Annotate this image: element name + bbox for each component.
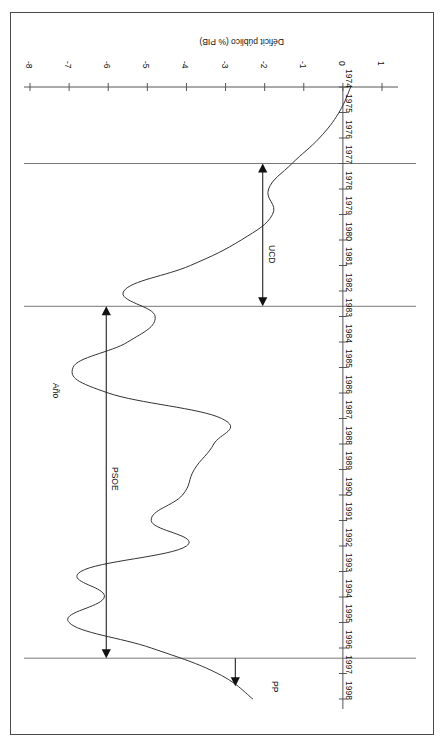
value-tick-label-4: -3 xyxy=(220,61,230,69)
year-tick-label-1979: 1979 xyxy=(344,197,354,216)
year-tick-label-1998: 1998 xyxy=(344,681,354,700)
year-tick-label-1993: 1993 xyxy=(344,554,354,573)
value-tick-label-7: -6 xyxy=(102,61,112,69)
year-tick-label-1974: 1974 xyxy=(344,69,354,88)
year-tick-label-1980: 1980 xyxy=(344,222,354,241)
year-tick-label-1988: 1988 xyxy=(344,426,354,445)
year-tick-label-1991: 1991 xyxy=(344,503,354,522)
chart-axes xyxy=(24,83,398,709)
year-tick-label-1996: 1996 xyxy=(344,630,354,649)
period-label-pp: PP xyxy=(270,681,280,692)
value-tick-label-8: -7 xyxy=(63,61,73,69)
arrow-head-up-ucd xyxy=(258,297,267,306)
rotated-figure-container: 1974197519761977197819791980198119821983… xyxy=(10,12,434,735)
deficit-line-chart: 1974197519761977197819791980198119821983… xyxy=(10,12,434,735)
year-tick-label-1983: 1983 xyxy=(344,299,354,318)
period-arrows xyxy=(102,164,268,687)
value-axis-title: Déficit público (% PIB) xyxy=(199,37,284,47)
year-tick-label-1985: 1985 xyxy=(344,350,354,369)
year-tick-label-1995: 1995 xyxy=(344,605,354,624)
year-tick-label-1990: 1990 xyxy=(344,477,354,496)
arrow-head-down-ucd xyxy=(258,164,267,173)
year-tick-label-1982: 1982 xyxy=(344,273,354,292)
year-tick-label-1978: 1978 xyxy=(344,171,354,190)
year-tick-label-1992: 1992 xyxy=(344,528,354,547)
period-label-ucd: UCD xyxy=(267,245,277,263)
year-axis-title: Año xyxy=(51,383,61,398)
year-tick-label-1997: 1997 xyxy=(344,656,354,675)
party-period-rules xyxy=(24,164,416,659)
year-tick-label-1976: 1976 xyxy=(344,120,354,139)
year-tick-label-1981: 1981 xyxy=(344,248,354,267)
year-tick-label-1986: 1986 xyxy=(344,375,354,394)
value-tick-label-0: 1 xyxy=(376,61,386,66)
chart-canvas xyxy=(10,12,434,735)
value-tick-label-9: -8 xyxy=(24,61,34,69)
year-tick-label-1977: 1977 xyxy=(344,146,354,165)
deficit-curve xyxy=(68,87,351,699)
value-tick-label-1: 0 xyxy=(337,61,347,66)
value-tick-label-2: -1 xyxy=(298,61,308,69)
arrow-head-down-psoe xyxy=(102,306,111,315)
deficit-line-path xyxy=(68,87,351,699)
year-tick-label-1984: 1984 xyxy=(344,324,354,343)
value-tick-label-5: -4 xyxy=(180,61,190,69)
figure-page: 1974197519761977197819791980198119821983… xyxy=(0,0,445,745)
arrow-head-up-psoe xyxy=(102,649,111,658)
value-tick-label-3: -2 xyxy=(259,61,269,69)
year-tick-label-1975: 1975 xyxy=(344,95,354,114)
period-label-psoe: PSOE xyxy=(110,467,120,491)
value-tick-label-6: -5 xyxy=(141,61,151,69)
year-tick-label-1989: 1989 xyxy=(344,452,354,471)
year-tick-label-1994: 1994 xyxy=(344,579,354,598)
year-tick-label-1987: 1987 xyxy=(344,401,354,420)
